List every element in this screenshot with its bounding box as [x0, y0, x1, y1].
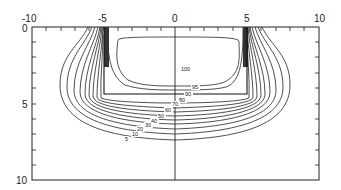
x-tick-label: 0 [172, 13, 178, 24]
contour-plot: -10 -5 0 5 10 0 5 10 100 95 90 80 70 60 … [0, 0, 341, 190]
x-tick-label: 10 [314, 13, 326, 24]
wall-shading-left [104, 27, 109, 67]
y-tick-label: 10 [16, 175, 28, 186]
contour-label: 30 [145, 122, 151, 128]
contour-label: 95 [192, 84, 198, 90]
contour-label: 5 [125, 136, 128, 142]
contour-label: 70 [172, 101, 178, 107]
contour-label: 90 [185, 91, 191, 97]
y-tick-label: 5 [22, 99, 28, 110]
x-tick-label: 5 [244, 13, 250, 24]
x-tick-label: -5 [98, 13, 107, 24]
contour-label: 60 [165, 107, 171, 113]
contour-label: 10 [132, 131, 138, 137]
contour-label: 100 [181, 66, 190, 72]
y-tick-label: 0 [22, 23, 28, 34]
